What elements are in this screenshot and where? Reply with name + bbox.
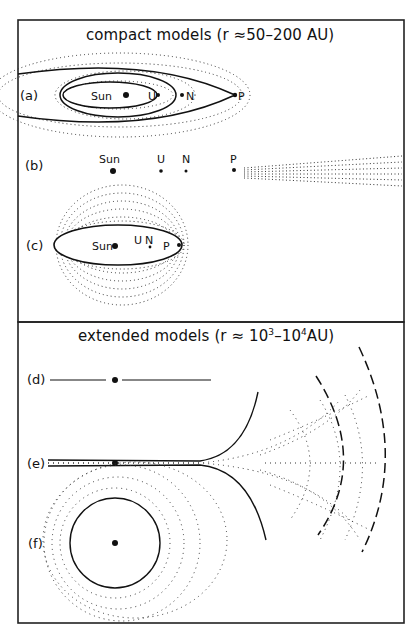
label-c: (c) — [26, 238, 43, 253]
sun-c — [112, 243, 118, 249]
sun-f — [112, 540, 118, 546]
dotted-disk-b — [244, 156, 402, 186]
label-b: (b) — [25, 158, 43, 173]
sun-label-b: Sun — [99, 153, 120, 166]
pluto-label-b: P — [230, 153, 237, 166]
extended-title-prefix: extended models (r ≈ 10 — [78, 327, 268, 345]
label-e: (e) — [27, 456, 45, 471]
neptune-label-b: N — [182, 153, 190, 166]
sun-e — [112, 460, 118, 466]
extended-models-title: extended models (r ≈ 103–104AU) — [78, 327, 334, 345]
label-f: (f) — [28, 536, 43, 551]
compact-models-title: compact models (r ≈50–200 AU) — [86, 26, 334, 44]
uranus-label-c: U — [134, 234, 142, 247]
neptune-label-a: N — [186, 90, 194, 103]
sun-label-a: Sun — [91, 90, 112, 103]
pluto-label-c: P — [163, 240, 170, 253]
comet-cloud-models-figure: (a) Sun U N P (b) Sun U N P (c) Sun U N … — [0, 0, 420, 636]
uranus-label-a: U — [148, 90, 156, 103]
extended-panel-frame — [18, 322, 404, 623]
dashed-outer-arcs-e — [316, 347, 385, 552]
extended-title-mid: –10 — [274, 327, 301, 345]
neptune-label-c: N — [145, 234, 153, 247]
extended-title-suffix: AU) — [307, 327, 334, 345]
bodies-b — [110, 168, 236, 174]
neptune-c — [149, 246, 152, 249]
label-d: (d) — [27, 372, 45, 387]
sun-label-c: Sun — [92, 240, 113, 253]
pluto-c — [177, 243, 181, 247]
bodies-a — [123, 92, 237, 98]
uranus-label-b: U — [157, 153, 165, 166]
sun-d — [112, 377, 118, 383]
pluto-label-a: P — [238, 90, 245, 103]
label-a: (a) — [20, 88, 38, 103]
